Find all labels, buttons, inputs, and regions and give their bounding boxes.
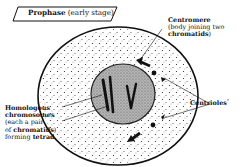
nucleus [91,64,155,124]
homologous-desc-3b: . [55,133,57,141]
centrioles-footnote-mark: * [227,98,229,103]
centromere-paren: ) [209,30,212,38]
homologous-label: Homologous chromosomes (each a pair of c… [5,105,57,141]
centrioles-title: Centrioles [190,99,227,107]
centromere-chromatids: chromatids [168,30,209,38]
homologous-tetrad: tetrad [33,133,55,141]
centrioles-label: Centrioles* [190,97,229,107]
centromere-label: Centromere (body joining two chromatids) [168,17,224,39]
homologous-desc-3a: forming [5,133,33,141]
